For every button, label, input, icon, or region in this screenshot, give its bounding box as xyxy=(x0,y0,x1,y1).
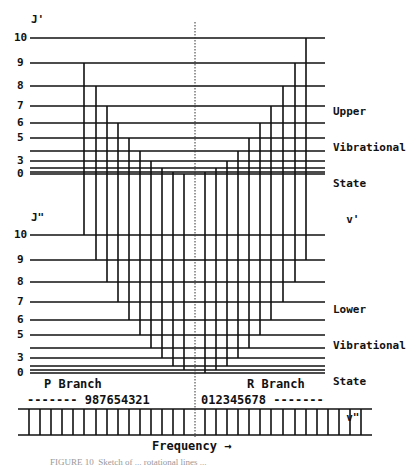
frequency-axis-label: Frequency → xyxy=(152,439,231,453)
p-branch-title: P Branch xyxy=(44,377,102,391)
upper-level-label-J5: 5 xyxy=(17,132,24,143)
upper-level-label-J3: 3 xyxy=(17,155,24,166)
lower-level-label-J8: 8 xyxy=(17,276,24,287)
upper-state-label: Upper Vibrational State v' xyxy=(333,82,406,238)
upper-state-line-2: Vibrational xyxy=(333,142,406,154)
lower-level-label-J7: 7 xyxy=(17,296,24,307)
figure-caption: FIGURE 10 Sketch of ... rotational lines… xyxy=(50,457,206,467)
upper-state-line-3: State xyxy=(333,178,406,190)
lower-energy-levels xyxy=(30,235,325,373)
lower-level-label-J5: 5 xyxy=(17,329,24,340)
lower-level-label-J0: 0 xyxy=(17,367,24,378)
upper-level-label-J6: 6 xyxy=(17,117,24,128)
p-branch-line-numbers: ------- 987654321 xyxy=(27,393,150,407)
lower-level-label-J9: 9 xyxy=(17,254,24,265)
upper-level-label-J7: 7 xyxy=(17,100,24,111)
lower-state-line-3: State xyxy=(333,376,406,388)
lower-level-label-J6: 6 xyxy=(17,314,24,325)
lower-state-line-1: Lower xyxy=(333,304,406,316)
upper-state-line-1: Upper xyxy=(333,106,406,118)
r-branch-title: R Branch xyxy=(247,377,305,391)
upper-level-label-J0: 0 xyxy=(17,168,24,179)
upper-level-label-J9: 9 xyxy=(17,57,24,68)
upper-state-line-4: v' xyxy=(333,214,406,226)
upper-level-label-J10: 10 xyxy=(14,32,27,43)
r-branch-line-numbers: 012345678 ------- xyxy=(201,393,324,407)
upper-axis-label: J' xyxy=(31,14,44,25)
lower-state-label: Lower Vibrational State v" xyxy=(333,280,406,436)
upper-energy-levels xyxy=(30,38,325,174)
lower-axis-label: J" xyxy=(31,212,44,223)
lower-state-line-4: v" xyxy=(333,412,406,424)
lower-state-line-2: Vibrational xyxy=(333,340,406,352)
lower-level-label-J3: 3 xyxy=(17,352,24,363)
lower-level-label-J10: 10 xyxy=(14,229,27,240)
upper-level-label-J8: 8 xyxy=(17,80,24,91)
